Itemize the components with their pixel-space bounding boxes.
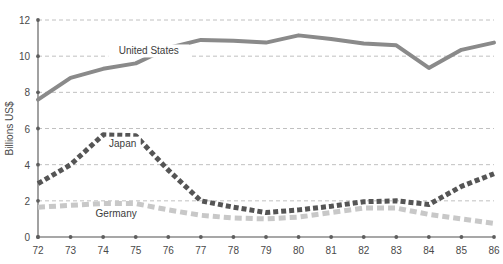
gridlines: [38, 20, 494, 201]
y-tick-label: 12: [19, 15, 31, 26]
data-series: [38, 35, 494, 223]
y-tick-label: 10: [19, 51, 31, 62]
series-label-germany: Germany: [96, 208, 137, 219]
y-axis-title-text: Billions US$: [4, 101, 15, 155]
x-tick-label: 80: [293, 245, 305, 256]
y-axis-title: Billions US$: [4, 101, 15, 155]
x-tick-label: 73: [65, 245, 77, 256]
x-tick-label: 77: [195, 245, 207, 256]
x-tick-label: 82: [358, 245, 370, 256]
x-tick-label: 76: [163, 245, 175, 256]
x-tick-label: 81: [326, 245, 338, 256]
y-tick-label: 0: [24, 232, 30, 243]
series-label-united-states: United States: [119, 45, 179, 56]
x-tick-label: 85: [456, 245, 468, 256]
y-tick-label: 8: [24, 87, 30, 98]
chart-container: 024681012 727374757677787980818283848586…: [0, 0, 503, 264]
y-tick-label: 4: [24, 160, 30, 171]
x-tick-label: 72: [32, 245, 44, 256]
x-tick-label: 75: [130, 245, 142, 256]
series-label-japan: Japan: [109, 138, 136, 149]
y-tick-labels: 024681012: [19, 15, 31, 243]
x-axis: [36, 235, 496, 239]
x-tick-label: 86: [488, 245, 500, 256]
x-tick-labels: 727374757677787980818283848586: [32, 245, 500, 256]
y-tick-label: 6: [24, 124, 30, 135]
x-tick-label: 83: [391, 245, 403, 256]
x-tick-label: 79: [260, 245, 272, 256]
y-tick-label: 2: [24, 196, 30, 207]
series-line-united-states: [38, 35, 494, 99]
series-annotations: United StatesJapanGermany: [93, 44, 190, 220]
line-chart: 024681012 727374757677787980818283848586…: [0, 0, 503, 264]
x-tick-label: 74: [98, 245, 110, 256]
x-tick-label: 78: [228, 245, 240, 256]
x-tick-label: 84: [423, 245, 435, 256]
